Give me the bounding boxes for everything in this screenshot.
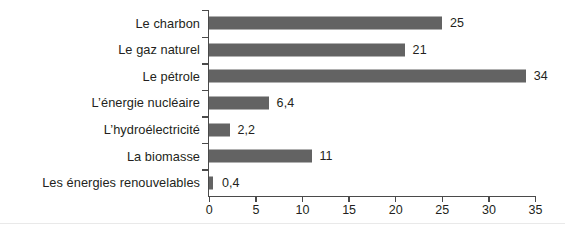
bar-value-label: 11 <box>320 149 333 163</box>
category-label-row: Le charbon <box>0 10 200 37</box>
x-axis-tick <box>442 196 443 202</box>
x-axis-tick-label: 35 <box>529 203 543 217</box>
x-axis-tick <box>302 196 303 202</box>
bar-row: 2,2 <box>209 116 535 143</box>
category-label-row: Les énergies renouvelables <box>0 169 200 196</box>
bar-value-label: 25 <box>450 16 464 30</box>
plot-area: 25 21 34 6,4 2,2 11 0,4 <box>209 10 535 196</box>
x-axis-tick <box>255 196 256 202</box>
bar-value-label: 6,4 <box>277 96 295 110</box>
x-axis-tick-label: 5 <box>252 203 259 217</box>
x-axis-tick-label: 15 <box>342 203 356 217</box>
y-axis-tick <box>202 90 209 91</box>
x-axis-tick-label: 10 <box>296 203 310 217</box>
y-axis-tick <box>202 169 209 170</box>
category-label-row: Le gaz naturel <box>0 37 200 64</box>
category-label: L’énergie nucléaire <box>92 95 200 110</box>
bar-energies-renouvelables <box>209 176 213 189</box>
x-axis-tick-label: 30 <box>482 203 496 217</box>
category-label-row: La biomasse <box>0 143 200 170</box>
x-axis-tick <box>488 196 489 202</box>
category-label: Le gaz naturel <box>118 42 200 57</box>
bar-row: 34 <box>209 63 535 90</box>
bar-row: 0,4 <box>209 169 535 196</box>
y-axis-tick <box>202 10 209 11</box>
bar-value-label: 34 <box>534 69 548 83</box>
category-label-row: Le pétrole <box>0 63 200 90</box>
x-axis-line <box>208 196 536 197</box>
x-axis-tick-label: 25 <box>435 203 449 217</box>
bar-chart-figure: Le charbon Le gaz naturel Le pétrole L’é… <box>0 0 565 239</box>
category-label-row: L’énergie nucléaire <box>0 90 200 117</box>
bar-energie-nucleaire <box>209 96 269 109</box>
bar-row: 21 <box>209 37 535 64</box>
bar-le-charbon <box>209 17 442 30</box>
category-label: Le pétrole <box>143 69 200 84</box>
y-axis-tick <box>202 37 209 38</box>
y-axis-tick <box>202 143 209 144</box>
bar-row: 25 <box>209 10 535 37</box>
category-label: Les énergies renouvelables <box>42 175 200 190</box>
bar-value-label: 2,2 <box>238 123 256 137</box>
category-label: La biomasse <box>127 149 200 164</box>
x-axis-tick-label: 0 <box>206 203 213 217</box>
x-axis-tick <box>395 196 396 202</box>
x-axis-tick <box>348 196 349 202</box>
page-divider-rule <box>0 223 565 224</box>
category-label: L’hydroélectricité <box>104 122 200 137</box>
bar-le-gaz-naturel <box>209 43 405 56</box>
x-axis-tick <box>209 196 210 202</box>
x-axis-tick <box>535 196 536 202</box>
bar-la-biomasse <box>209 150 312 163</box>
bar-value-label: 0,4 <box>222 176 240 190</box>
y-axis-tick <box>202 116 209 117</box>
bar-le-petrole <box>209 70 526 83</box>
category-label-row: L’hydroélectricité <box>0 116 200 143</box>
x-axis-tick-label: 20 <box>389 203 403 217</box>
category-label: Le charbon <box>135 16 200 31</box>
bar-value-label: 21 <box>413 43 427 57</box>
y-axis-tick <box>202 63 209 64</box>
bar-row: 11 <box>209 143 535 170</box>
bar-row: 6,4 <box>209 90 535 117</box>
category-axis-labels: Le charbon Le gaz naturel Le pétrole L’é… <box>0 10 200 196</box>
bar-hydroelectricite <box>209 123 230 136</box>
